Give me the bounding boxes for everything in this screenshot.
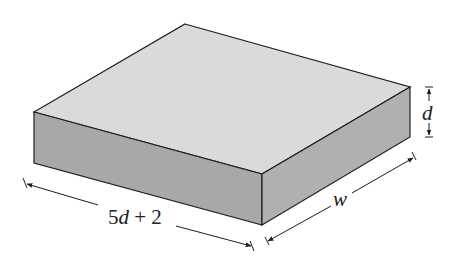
- length-label: 5d + 2: [108, 205, 162, 229]
- depth-dimension: d: [422, 87, 433, 137]
- width-label: w: [333, 187, 347, 211]
- box-diagram: d 5d + 2 w: [0, 0, 458, 258]
- depth-label: d: [422, 101, 433, 125]
